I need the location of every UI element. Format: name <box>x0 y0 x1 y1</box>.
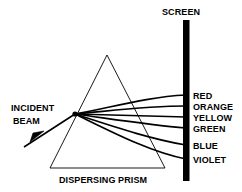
spectrum-label-red: RED <box>193 91 212 101</box>
spectrum-label-orange: ORANGE <box>193 102 233 112</box>
spectrum-label-yellow: YELLOW <box>193 113 232 123</box>
prism-dispersion-diagram: SCREEN INCIDENT BEAM DISPERSING PRISM RE… <box>0 0 242 192</box>
spectrum-label-green: GREEN <box>193 124 226 134</box>
incident-beam-label-1: INCIDENT <box>11 103 54 113</box>
screen-label: SCREEN <box>162 7 200 17</box>
incident-beam-label-2: BEAM <box>13 116 40 126</box>
ray-red <box>75 95 186 114</box>
spectrum-label-blue: BLUE <box>193 141 218 151</box>
dispersing-prism-label: DISPERSING PRISM <box>59 175 147 185</box>
incident-beam-arrowhead <box>30 131 44 142</box>
screen-bar <box>183 20 190 181</box>
ray-violet <box>75 114 186 159</box>
spectrum-label-violet: VIOLET <box>193 155 226 165</box>
